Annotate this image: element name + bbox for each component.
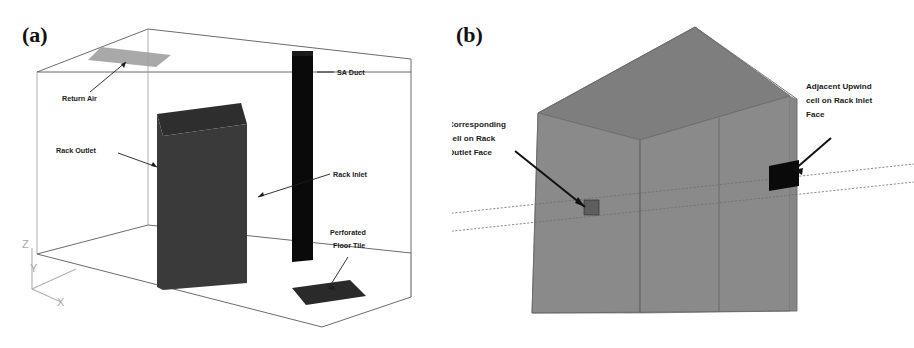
cell-marker-rack-outlet — [584, 200, 599, 215]
panel-a-room-overview: (a) — [0, 0, 452, 348]
axis-label-y: Y — [30, 262, 38, 274]
annotation-adjacent-upwind-cell-line2: cell on Rack Inlet — [806, 96, 872, 105]
sa-duct — [292, 51, 313, 262]
annotation-adjacent-upwind-cell-line1: Adjacent Upwind — [806, 82, 872, 91]
panel-a-tag: (a) — [22, 22, 48, 48]
annotation-sa-duct-label: SA Duct — [337, 68, 365, 77]
annotation-corresponding-cell-line3: Outlet Face — [452, 148, 493, 157]
annotation-rack-outlet: Rack Outlet — [56, 146, 157, 167]
annotation-adjacent-upwind-cell-line3: Face — [806, 110, 825, 119]
annotation-rack-outlet-label: Rack Outlet — [56, 146, 97, 155]
figure-root: (a) — [0, 0, 914, 348]
annotation-perforated-floor-tile-label-line1: Perforated — [330, 228, 366, 237]
axis-triad: Z Y X — [22, 238, 76, 308]
annotation-adjacent-upwind-cell: Adjacent Upwind cell on Rack Inlet Face — [794, 82, 872, 175]
axis-label-x: X — [57, 296, 65, 308]
annotation-rack-inlet-label: Rack Inlet — [333, 170, 368, 179]
rack-box — [157, 103, 247, 290]
panel-b-rack-cell-detail: (b) — [452, 0, 914, 348]
panel-b-tag: (b) — [456, 22, 483, 48]
panel-b-diagram: Corresponding cell on Rack Outlet Face A… — [452, 0, 914, 348]
annotation-corresponding-cell-line1: Corresponding — [452, 120, 506, 129]
annotation-return-air-label: Return Air — [62, 94, 97, 103]
panel-a-diagram: Z Y X Return Air SA Duct Rack Outlet — [0, 0, 452, 348]
perforated-floor-tile — [292, 280, 366, 305]
axis-label-z: Z — [22, 238, 29, 250]
annotation-corresponding-cell-line2: cell on Rack — [452, 134, 496, 143]
rack-solid — [532, 27, 797, 313]
annotation-perforated-floor-tile-label-line2: Floor Tile — [333, 241, 365, 250]
